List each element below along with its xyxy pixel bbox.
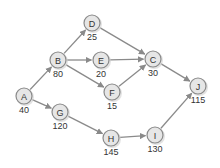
node-value: 30: [148, 68, 158, 78]
edge-b-d: [64, 30, 85, 53]
node-label: J: [196, 82, 201, 92]
edge-h-i: [120, 136, 146, 138]
node-d: D25: [84, 15, 102, 42]
node-label: C: [150, 55, 157, 65]
node-a: A40: [16, 88, 34, 115]
node-g: G120: [52, 104, 70, 131]
node-h: H145: [103, 130, 121, 157]
node-value: 40: [19, 105, 29, 115]
edge-d-c: [100, 28, 145, 55]
network-diagram: A40B80D25E20F15C30J115G120H145I130: [0, 0, 220, 168]
node-f: F15: [104, 84, 122, 111]
node-j: J115: [190, 78, 208, 105]
edge-c-j: [161, 64, 190, 81]
edge-i-j: [161, 93, 192, 128]
edge-a-b: [30, 67, 51, 90]
node-value: 15: [107, 101, 117, 111]
node-label: H: [108, 134, 115, 144]
node-label: I: [154, 131, 157, 141]
nodes-layer: A40B80D25E20F15C30J115G120H145I130: [16, 15, 208, 157]
node-value: 115: [191, 95, 205, 105]
edge-g-h: [68, 116, 103, 134]
edge-f-c: [119, 65, 146, 86]
node-c: C30: [145, 51, 163, 78]
node-label: E: [98, 56, 104, 66]
node-label: F: [109, 88, 115, 98]
node-value: 20: [96, 69, 106, 79]
node-value: 130: [147, 144, 162, 154]
node-b: B80: [50, 52, 68, 79]
node-label: B: [55, 56, 61, 66]
node-label: A: [21, 92, 27, 102]
node-i: I130: [147, 127, 165, 154]
edge-a-g: [32, 100, 51, 108]
node-label: G: [56, 108, 63, 118]
node-value: 145: [103, 147, 118, 157]
node-value: 80: [53, 69, 63, 79]
node-value: 120: [52, 121, 67, 131]
node-e: E20: [93, 52, 111, 79]
node-value: 25: [87, 32, 97, 42]
node-label: D: [89, 19, 96, 29]
edge-e-c: [110, 59, 144, 60]
